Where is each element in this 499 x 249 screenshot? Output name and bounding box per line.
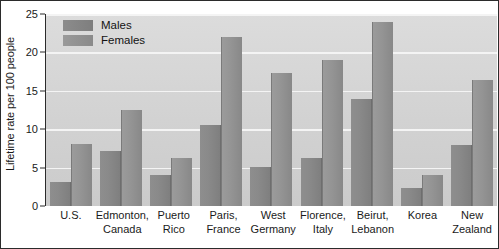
x-axis-tick-label: Paris,France: [199, 209, 249, 249]
y-axis-tick-label: 10: [26, 123, 38, 135]
bar-males[interactable]: [250, 167, 271, 206]
legend-item[interactable]: Females: [63, 34, 145, 46]
x-axis-tick-label-line2: Canada: [96, 223, 149, 237]
bar-females[interactable]: [422, 175, 443, 206]
x-axis-tick-label-line1: U.S.: [60, 209, 81, 221]
bar-males[interactable]: [50, 182, 71, 206]
x-axis-tick-label-line2: Rico: [149, 223, 199, 237]
x-axis-tick-label-line2: Italy: [298, 223, 348, 237]
bar-males[interactable]: [301, 158, 322, 206]
y-axis-tick-label: 0: [32, 200, 38, 212]
chart-legend: MalesFemales: [63, 19, 145, 46]
x-axis-tick-label-line2: Zealand: [447, 223, 497, 237]
x-axis-tick-label: Korea: [398, 209, 448, 249]
x-axis-tick-label-line1: New: [461, 209, 483, 221]
x-axis-ticks: U.S.Edmonton,CanadaPuertoRicoParis,Franc…: [46, 209, 497, 249]
y-axis-tick-label: 15: [26, 85, 38, 97]
x-axis-tick-label: Beirut,Lebanon: [348, 209, 398, 249]
y-axis-tick-label: 20: [26, 46, 38, 58]
legend-swatch-icon: [63, 20, 93, 31]
y-axis-title: Lifetime rate per 100 people: [1, 1, 19, 206]
legend-item[interactable]: Males: [63, 19, 145, 31]
x-axis-tick-label: U.S.: [46, 209, 96, 249]
y-axis-title-text: Lifetime rate per 100 people: [4, 36, 16, 170]
y-axis-ticks: 0510152025: [19, 1, 45, 206]
x-axis-tick-label-line1: Edmonton,: [96, 209, 149, 221]
bar-females[interactable]: [472, 80, 493, 206]
bar-females[interactable]: [221, 37, 242, 206]
x-axis-tick-label-line1: Korea: [408, 209, 437, 221]
bar-group: [196, 14, 246, 206]
bar-males[interactable]: [200, 125, 221, 206]
x-axis-tick-label-line1: Puerto: [158, 209, 190, 221]
x-axis-tick-label-line1: Beirut,: [357, 209, 389, 221]
bar-group: [246, 14, 296, 206]
bar-group: [146, 14, 196, 206]
legend-label: Males: [101, 19, 132, 31]
x-axis-tick-label: Edmonton,Canada: [96, 209, 149, 249]
bar-males[interactable]: [401, 188, 422, 206]
bar-group: [297, 14, 347, 206]
bar-group: [447, 14, 497, 206]
bar-females[interactable]: [322, 60, 343, 206]
x-axis-tick-label-line2: Lebanon: [348, 223, 398, 237]
bar-group: [347, 14, 397, 206]
x-axis-tick-label-line1: Paris,: [209, 209, 237, 221]
legend-label: Females: [101, 34, 145, 46]
x-axis-tick-label-line1: Florence,: [300, 209, 346, 221]
bar-females[interactable]: [121, 110, 142, 206]
bar-females[interactable]: [171, 158, 192, 206]
x-axis-tick-label: Florence,Italy: [298, 209, 348, 249]
bar-females[interactable]: [271, 73, 292, 206]
x-axis-tick-label-line2: Germany: [248, 223, 298, 237]
legend-swatch-icon: [63, 35, 93, 46]
x-axis-tick-label: NewZealand: [447, 209, 497, 249]
bar-males[interactable]: [451, 145, 472, 206]
y-axis-tick-label: 5: [32, 162, 38, 174]
x-axis-tick-label: PuertoRico: [149, 209, 199, 249]
bar-females[interactable]: [71, 144, 92, 206]
x-axis-tick-label: WestGermany: [248, 209, 298, 249]
bar-chart-figure: Lifetime rate per 100 people 0510152025 …: [0, 0, 499, 249]
bar-group: [397, 14, 447, 206]
bar-males[interactable]: [150, 175, 171, 206]
x-axis-tick-label-line2: France: [199, 223, 249, 237]
bar-males[interactable]: [351, 99, 372, 206]
x-axis-tick-label-line1: West: [261, 209, 286, 221]
bar-males[interactable]: [100, 151, 121, 206]
y-axis-tick-label: 25: [26, 8, 38, 20]
bar-females[interactable]: [372, 22, 393, 206]
